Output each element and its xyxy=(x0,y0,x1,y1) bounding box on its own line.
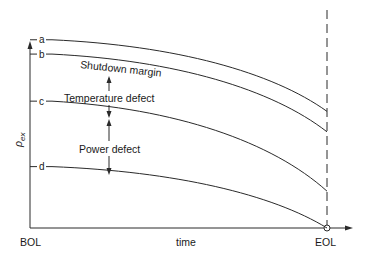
y-axis-arrow-icon xyxy=(28,41,33,49)
temperature-defect-label: Temperature defect xyxy=(64,92,155,104)
arrow-up-icon xyxy=(107,119,112,126)
arrow-down-icon xyxy=(107,168,112,175)
shutdown-margin-label: Shutdown margin xyxy=(80,58,163,78)
reactivity-diagram: abcd Shutdown margin Temperature defect … xyxy=(0,0,369,257)
curve-label-c: c xyxy=(39,96,44,107)
svg-text:ρex: ρex xyxy=(12,132,27,148)
y-axis-subscript: ex xyxy=(18,132,27,141)
curve-d xyxy=(52,167,327,228)
power-defect-label: Power defect xyxy=(79,143,140,155)
curve-label-b: b xyxy=(39,49,45,60)
arrow-down-icon xyxy=(107,111,112,118)
y-ticks: abcd xyxy=(30,34,52,172)
x-axis-arrow-icon xyxy=(345,226,353,231)
bol-label: BOL xyxy=(20,236,41,248)
y-axis-label: ρex xyxy=(12,132,27,148)
curve-label-d: d xyxy=(39,161,45,172)
eol-label: EOL xyxy=(315,236,336,248)
y-axis-symbol: ρ xyxy=(12,141,24,148)
time-label: time xyxy=(176,236,196,248)
curve-label-a: a xyxy=(39,34,45,45)
arrow-up-icon xyxy=(107,76,112,83)
